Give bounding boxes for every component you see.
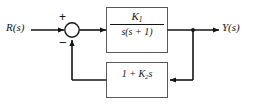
summing-junction-circle xyxy=(65,23,79,37)
summing-junction-minus-sign: − xyxy=(59,36,67,49)
summing-junction-plus-sign: + xyxy=(59,11,66,23)
forward-block-denominator: s(s + 1) xyxy=(108,26,166,37)
feedback-block-transfer-function: 1 + K2s xyxy=(108,69,166,80)
forward-gain-symbol: K xyxy=(131,10,138,22)
fraction-bar xyxy=(110,24,164,25)
feedback-expression-suffix: s xyxy=(148,68,152,79)
forward-block-transfer-function: K1 s(s + 1) xyxy=(108,11,166,37)
forward-block-numerator: K1 xyxy=(108,11,166,24)
forward-gain-subscript: 1 xyxy=(139,15,143,24)
output-signal-label: Y(s) xyxy=(222,22,240,33)
block-diagram-canvas: R(s) Y(s) + − K1 s(s + 1) 1 + K2s xyxy=(0,0,253,104)
input-signal-label: R(s) xyxy=(6,22,24,33)
feedback-expression-prefix: 1 + xyxy=(122,68,139,79)
